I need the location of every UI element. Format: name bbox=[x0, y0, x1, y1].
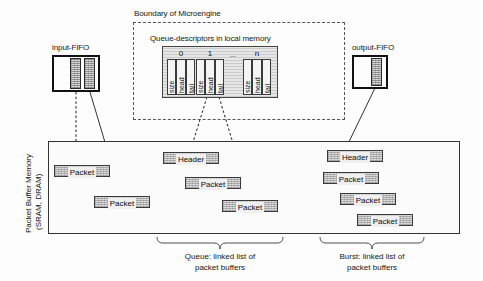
burst-header-buffer: Header bbox=[327, 150, 383, 162]
descriptor-label-1-size: size bbox=[197, 81, 205, 93]
descriptor-label-n-tail: tail bbox=[264, 84, 272, 93]
free-packet-buffer-1-label: Packet bbox=[68, 167, 96, 178]
burst-header-label: Header bbox=[340, 152, 370, 163]
burst-packet-buffer-2: Packet bbox=[340, 193, 396, 205]
descriptor-label-0-head: head bbox=[178, 77, 186, 93]
descriptor-column-index-n: n bbox=[243, 49, 271, 58]
output-fifo-box bbox=[352, 55, 388, 89]
packet-buffer-memory-label-line2: (SRAM, DRAM) bbox=[34, 174, 43, 230]
descriptor-label-0-size: size bbox=[168, 81, 176, 93]
input-fifo-cell-2 bbox=[84, 58, 95, 89]
free-packet-buffer-2: Packet bbox=[94, 196, 150, 208]
descriptor-column-index-0: 0 bbox=[167, 49, 195, 58]
input-fifo-label: input-FIFO bbox=[52, 43, 89, 52]
packet-buffer-memory-label-line1: Packet Buffer Memory bbox=[24, 154, 33, 233]
queue-packet-2-label: Packet bbox=[236, 202, 264, 213]
burst-packet-buffer-3: Packet bbox=[357, 214, 413, 226]
queue-descriptor-table: 0 1 ... n size head tail size head tail … bbox=[162, 46, 278, 98]
burst-packet-2-label: Packet bbox=[354, 195, 382, 206]
burst-packet-1-label: Packet bbox=[337, 174, 365, 185]
burst-caption-line2: packet buffers bbox=[316, 263, 428, 273]
queue-packet-1-label: Packet bbox=[199, 179, 227, 190]
descriptor-column-ellipsis: ... bbox=[225, 50, 241, 59]
queue-packet-buffer-2: Packet bbox=[222, 200, 278, 212]
burst-caption-line1: Burst: linked list of bbox=[316, 252, 428, 262]
free-packet-buffer-2-label: Packet bbox=[108, 198, 136, 209]
output-fifo-cell-1 bbox=[371, 58, 382, 86]
diagram-canvas: Boundary of Microengine Queue-descriptor… bbox=[0, 0, 483, 281]
queue-caption-line2: packet buffers bbox=[160, 263, 280, 273]
descriptor-label-1-head: head bbox=[207, 77, 215, 93]
descriptor-label-n-size: size bbox=[244, 81, 252, 93]
queue-header-label: Header bbox=[176, 154, 206, 165]
descriptor-label-0-tail: tail bbox=[188, 84, 196, 93]
output-fifo-label: output-FIFO bbox=[352, 43, 394, 52]
queue-packet-buffer-1: Packet bbox=[185, 177, 241, 189]
brace-burst bbox=[320, 237, 424, 249]
brace-queue bbox=[157, 237, 283, 249]
input-fifo-cell-1 bbox=[70, 58, 81, 89]
microengine-boundary-label: Boundary of Microengine bbox=[134, 9, 221, 18]
free-packet-buffer-1: Packet bbox=[54, 165, 110, 177]
descriptor-label-1-tail: tail bbox=[217, 84, 225, 93]
queue-caption-line1: Queue: linked list of bbox=[160, 252, 280, 262]
descriptor-column-index-1: 1 bbox=[196, 49, 224, 58]
burst-packet-3-label: Packet bbox=[371, 216, 399, 227]
burst-packet-buffer-1: Packet bbox=[323, 172, 379, 184]
descriptor-label-n-head: head bbox=[254, 77, 262, 93]
queue-descriptors-title: Queue-descriptors in local memory bbox=[150, 34, 271, 43]
queue-header-buffer: Header bbox=[163, 152, 219, 164]
